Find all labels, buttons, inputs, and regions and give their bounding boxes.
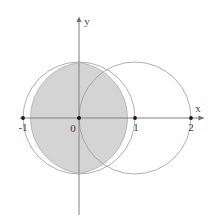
x-axis-label: x	[195, 102, 201, 114]
tick-dot-origin	[77, 116, 81, 120]
lens-bottom-vertex-dot	[78, 172, 80, 174]
x-axis-arrow-icon	[199, 115, 205, 120]
y-axis-label: y	[84, 15, 90, 27]
x-tick-label-minus-one: -1	[18, 121, 27, 133]
x-tick-label-one: 1	[133, 121, 139, 133]
y-axis-arrow-icon	[76, 17, 81, 23]
geometry-figure: -1 0 1 2 x y	[0, 0, 217, 223]
x-tick-label-two: 2	[188, 121, 194, 133]
origin-label: 0	[70, 122, 76, 134]
plot-canvas: -1 0 1 2 x y	[0, 0, 217, 223]
tick-dot-two	[189, 116, 193, 120]
tick-dot-one	[133, 116, 137, 120]
tick-dot-minus-one	[21, 116, 25, 120]
lens-top-vertex-dot	[78, 61, 80, 63]
